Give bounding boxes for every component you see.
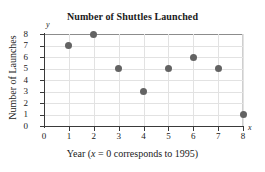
data-point: [190, 54, 197, 61]
plot-area: [44, 34, 243, 126]
y-axis-tick-label: 0: [18, 122, 28, 131]
y-axis-tick: [40, 80, 44, 81]
y-axis-tick: [40, 103, 44, 104]
y-axis-tick-label: 6: [18, 53, 28, 62]
data-point: [240, 111, 247, 118]
gridline-vertical: [218, 34, 219, 126]
x-axis-caption: Year (x = 0 corresponds to 1995): [0, 148, 265, 159]
chart-figure: Number of Shuttles Launched Number of La…: [0, 0, 265, 172]
data-point: [65, 42, 72, 49]
x-axis-tick-label: 6: [187, 132, 199, 141]
y-axis-letter: y: [46, 20, 50, 29]
x-axis-tick-label: 5: [162, 132, 174, 141]
y-axis-tick: [40, 126, 44, 127]
x-axis-tick-label: 1: [63, 132, 75, 141]
y-axis-tick-label: 7: [18, 41, 28, 50]
x-axis-tick-label: 7: [212, 132, 224, 141]
data-point: [165, 65, 172, 72]
data-point: [90, 31, 97, 38]
x-axis-letter: x: [248, 123, 252, 132]
y-axis-tick: [40, 92, 44, 93]
x-axis-tick-label: 0: [38, 132, 50, 141]
data-point: [215, 65, 222, 72]
y-axis-title: Number of Launches: [7, 23, 18, 133]
gridline-vertical: [119, 34, 120, 126]
y-axis-tick-label: 2: [18, 99, 28, 108]
caption-suffix: = 0 corresponds to 1995): [96, 148, 199, 159]
data-point: [140, 88, 147, 95]
y-axis-tick-label: 3: [18, 87, 28, 96]
x-axis-tick-label: 3: [113, 132, 125, 141]
y-axis-tick: [40, 57, 44, 58]
x-axis-tick-label: 2: [88, 132, 100, 141]
y-axis-tick: [40, 34, 44, 35]
y-axis-tick: [40, 46, 44, 47]
y-axis-line: [44, 33, 45, 128]
y-axis-tick: [40, 115, 44, 116]
gridline-vertical: [193, 34, 194, 126]
y-axis-tick-label: 5: [18, 64, 28, 73]
y-axis-tick-label: 4: [18, 76, 28, 85]
caption-prefix: Year (: [67, 148, 91, 159]
y-axis-tick-label: 1: [18, 110, 28, 119]
y-axis-tick-label: 8: [18, 30, 28, 39]
gridline-vertical: [168, 34, 169, 126]
gridline-vertical: [144, 34, 145, 126]
y-axis-tick: [40, 69, 44, 70]
chart-title: Number of Shuttles Launched: [0, 11, 265, 22]
data-point: [115, 65, 122, 72]
x-axis-tick-label: 8: [237, 132, 249, 141]
gridline-vertical: [94, 34, 95, 126]
x-axis-tick-label: 4: [138, 132, 150, 141]
